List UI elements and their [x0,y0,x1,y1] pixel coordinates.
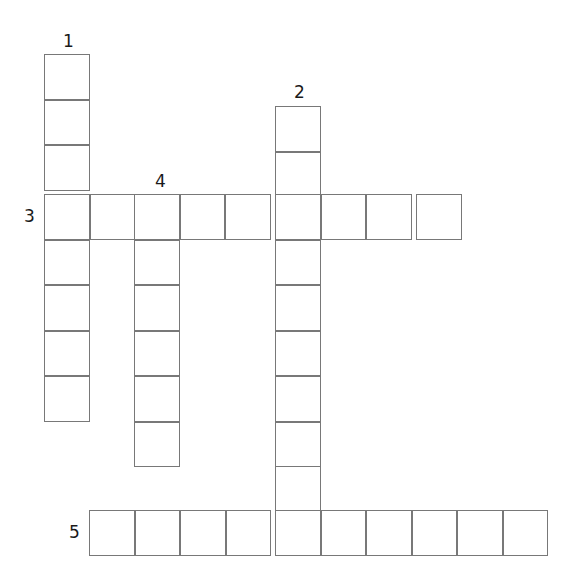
crossword-cell[interactable] [366,510,412,556]
crossword-grid: 12345 [0,0,585,585]
crossword-cell[interactable] [134,240,180,286]
clue-number-5-across: 5 [69,524,80,541]
crossword-cell[interactable] [180,510,226,556]
crossword-cell[interactable] [225,194,271,240]
crossword-cell[interactable] [44,194,90,240]
crossword-cell[interactable] [44,376,90,422]
crossword-cell[interactable] [226,510,272,556]
crossword-cell[interactable] [275,285,321,331]
clue-number-2-down: 2 [294,84,305,101]
crossword-cell[interactable] [457,510,503,556]
crossword-cell[interactable] [44,240,90,286]
crossword-cell[interactable] [503,510,549,556]
crossword-cell[interactable] [44,285,90,331]
crossword-cell[interactable] [275,422,321,468]
crossword-cell[interactable] [321,194,367,240]
crossword-cell[interactable] [134,194,180,240]
crossword-cell[interactable] [180,194,226,240]
crossword-cell[interactable] [44,54,90,100]
clue-number-4-down: 4 [155,173,166,190]
crossword-cell[interactable] [134,376,180,422]
crossword-cell[interactable] [135,510,181,556]
crossword-cell[interactable] [44,331,90,377]
crossword-cell[interactable] [275,106,321,152]
crossword-cell[interactable] [275,376,321,422]
crossword-cell[interactable] [366,194,412,240]
crossword-cell[interactable] [90,194,136,240]
crossword-cell[interactable] [275,152,321,198]
crossword-cell[interactable] [275,240,321,286]
crossword-cell[interactable] [44,100,90,146]
crossword-cell[interactable] [134,331,180,377]
clue-number-1-down: 1 [63,33,74,50]
crossword-cell[interactable] [416,194,462,240]
clue-number-3-across: 3 [24,208,35,225]
crossword-cell[interactable] [275,510,321,556]
crossword-cell[interactable] [89,510,135,556]
crossword-cell[interactable] [275,331,321,377]
crossword-cell[interactable] [412,510,458,556]
crossword-cell[interactable] [134,285,180,331]
crossword-cell[interactable] [321,510,367,556]
crossword-cell[interactable] [134,422,180,468]
crossword-cell[interactable] [44,145,90,191]
crossword-cell[interactable] [275,194,321,240]
crossword-cell[interactable] [275,466,321,512]
